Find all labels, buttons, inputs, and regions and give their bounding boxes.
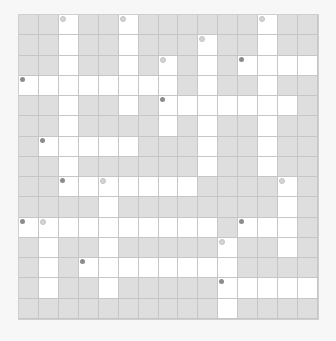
- grid-cell-open[interactable]: [99, 258, 119, 278]
- grid-cell-open[interactable]: [59, 96, 79, 116]
- grid-cell-open[interactable]: [119, 96, 139, 116]
- grid-cell-open[interactable]: [178, 258, 198, 278]
- grid-cell-block: [218, 15, 238, 35]
- grid-cell-open[interactable]: [159, 96, 179, 116]
- grid-cell-open[interactable]: [99, 278, 119, 298]
- grid-cell-open[interactable]: [238, 56, 258, 76]
- grid-cell-open[interactable]: [59, 15, 79, 35]
- grid-cell-open[interactable]: [159, 56, 179, 76]
- grid-cell-open[interactable]: [258, 157, 278, 177]
- grid-cell-open[interactable]: [159, 218, 179, 238]
- grid-cell-open[interactable]: [278, 177, 298, 197]
- grid-cell-open[interactable]: [218, 258, 238, 278]
- grid-cell-open[interactable]: [298, 56, 318, 76]
- grid-cell-open[interactable]: [59, 157, 79, 177]
- grid-cell-open[interactable]: [258, 278, 278, 298]
- grid-cell-open[interactable]: [39, 218, 59, 238]
- grid-cell-open[interactable]: [198, 116, 218, 136]
- grid-cell-open[interactable]: [258, 96, 278, 116]
- grid-cell-open[interactable]: [119, 15, 139, 35]
- grid-cell-open[interactable]: [119, 76, 139, 96]
- grid-cell-open[interactable]: [79, 218, 99, 238]
- grid-cell-open[interactable]: [258, 76, 278, 96]
- grid-cell-open[interactable]: [238, 96, 258, 116]
- grid-cell-open[interactable]: [178, 177, 198, 197]
- grid-cell-block: [178, 35, 198, 55]
- grid-cell-open[interactable]: [119, 177, 139, 197]
- grid-cell-open[interactable]: [79, 137, 99, 157]
- grid-cell-open[interactable]: [99, 177, 119, 197]
- grid-cell-open[interactable]: [99, 137, 119, 157]
- grid-cell-open[interactable]: [119, 56, 139, 76]
- grid-cell-open[interactable]: [198, 218, 218, 238]
- grid-cell-open[interactable]: [159, 177, 179, 197]
- grid-cell-open[interactable]: [258, 56, 278, 76]
- grid-cell-open[interactable]: [139, 218, 159, 238]
- grid-cell-open[interactable]: [198, 258, 218, 278]
- grid-cell-open[interactable]: [139, 76, 159, 96]
- grid-cell-open[interactable]: [39, 278, 59, 298]
- grid-cell-open[interactable]: [119, 258, 139, 278]
- grid-cell-block: [298, 258, 318, 278]
- grid-cell-open[interactable]: [258, 35, 278, 55]
- grid-cell-open[interactable]: [258, 137, 278, 157]
- grid-cell-open[interactable]: [278, 197, 298, 217]
- grid-cell-open[interactable]: [258, 218, 278, 238]
- grid-cell-open[interactable]: [39, 76, 59, 96]
- grid-cell-open[interactable]: [198, 56, 218, 76]
- grid-cell-open[interactable]: [39, 137, 59, 157]
- grid-cell-open[interactable]: [99, 76, 119, 96]
- grid-cell-open[interactable]: [178, 96, 198, 116]
- grid-cell-open[interactable]: [198, 76, 218, 96]
- grid-cell-open[interactable]: [198, 35, 218, 55]
- grid-cell-open[interactable]: [139, 177, 159, 197]
- grid-cell-open[interactable]: [159, 76, 179, 96]
- grid-cell-open[interactable]: [59, 177, 79, 197]
- grid-cell-open[interactable]: [278, 96, 298, 116]
- grid-cell-open[interactable]: [218, 238, 238, 258]
- grid-cell-open[interactable]: [178, 218, 198, 238]
- grid-cell-open[interactable]: [59, 76, 79, 96]
- grid-cell-open[interactable]: [258, 116, 278, 136]
- clue-start-marker-icon: [259, 16, 265, 22]
- grid-cell-open[interactable]: [218, 299, 238, 319]
- grid-cell-open[interactable]: [159, 116, 179, 136]
- grid-cell-open[interactable]: [39, 258, 59, 278]
- grid-cell-open[interactable]: [119, 137, 139, 157]
- grid-cell-open[interactable]: [39, 238, 59, 258]
- grid-cell-open[interactable]: [278, 238, 298, 258]
- grid-cell-open[interactable]: [79, 76, 99, 96]
- grid-cell-open[interactable]: [198, 157, 218, 177]
- grid-cell-block: [19, 258, 39, 278]
- grid-cell-open[interactable]: [59, 218, 79, 238]
- grid-cell-open[interactable]: [59, 116, 79, 136]
- grid-cell-open[interactable]: [79, 258, 99, 278]
- grid-cell-open[interactable]: [19, 218, 39, 238]
- grid-cell-open[interactable]: [238, 278, 258, 298]
- grid-cell-open[interactable]: [298, 278, 318, 298]
- grid-cell-open[interactable]: [159, 258, 179, 278]
- grid-cell-block: [79, 278, 99, 298]
- grid-cell-open[interactable]: [218, 278, 238, 298]
- grid-cell-open[interactable]: [59, 137, 79, 157]
- grid-cell-block: [139, 116, 159, 136]
- grid-cell-open[interactable]: [79, 177, 99, 197]
- grid-cell-open[interactable]: [278, 56, 298, 76]
- grid-cell-open[interactable]: [59, 56, 79, 76]
- grid-cell-open[interactable]: [258, 15, 278, 35]
- grid-cell-open[interactable]: [278, 218, 298, 238]
- grid-cell-open[interactable]: [119, 218, 139, 238]
- grid-cell-open[interactable]: [218, 96, 238, 116]
- grid-cell-open[interactable]: [59, 35, 79, 55]
- grid-cell-open[interactable]: [19, 76, 39, 96]
- grid-cell-open[interactable]: [99, 218, 119, 238]
- grid-cell-open[interactable]: [139, 258, 159, 278]
- grid-cell-open[interactable]: [238, 218, 258, 238]
- grid-cell-block: [278, 258, 298, 278]
- grid-cell-open[interactable]: [99, 197, 119, 217]
- grid-cell-open[interactable]: [119, 35, 139, 55]
- grid-cell-open[interactable]: [198, 137, 218, 157]
- grid-cell-open[interactable]: [278, 278, 298, 298]
- grid-cell-open[interactable]: [99, 238, 119, 258]
- grid-cell-open[interactable]: [198, 96, 218, 116]
